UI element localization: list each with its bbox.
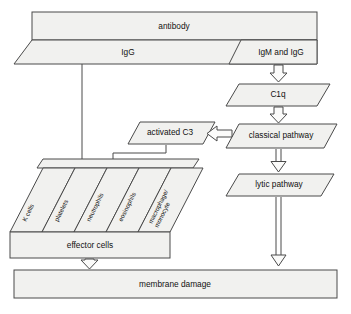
- node-effector-cells-label: effector cells: [67, 240, 113, 250]
- effector-stack-top-bar: [37, 159, 199, 168]
- node-lytic-pathway-label: lytic pathway: [255, 179, 303, 189]
- node-c1q-label: C1q: [270, 89, 286, 99]
- connector-activated-c3-to-effector: [113, 145, 166, 159]
- arrow-effector-to-membrane: [81, 259, 98, 269]
- arrow-lytic-to-membrane: [271, 255, 286, 266]
- arrow-igm-to-c1q: [270, 65, 287, 82]
- node-igm-igg-label: IgM and IgG: [258, 47, 304, 57]
- arrow-c1q-to-classical: [270, 107, 287, 123]
- node-membrane-damage-label: membrane damage: [139, 279, 211, 289]
- node-antibody-label: antibody: [158, 21, 190, 31]
- flowchart-diagram: antibody IgG IgM and IgG C1q classical p…: [0, 0, 351, 314]
- shaft-lytic-to-membrane: [276, 197, 281, 257]
- arrow-classical-to-lytic: [271, 162, 286, 173]
- node-classical-pathway-label: classical pathway: [249, 130, 314, 140]
- node-igg-label: IgG: [121, 47, 134, 57]
- node-activated-c3-label: activated C3: [147, 127, 194, 137]
- shaft-classical-to-lytic: [276, 149, 281, 163]
